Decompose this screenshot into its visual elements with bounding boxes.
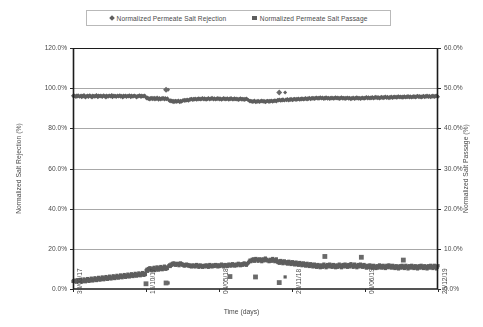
chart-plot-area [0,0,483,327]
y-axis-left-tick-label: 0.0% [27,285,67,292]
x-axis-tick-label: 04/05/18 [222,268,229,294]
y-axis-right-tick-label: 0.0% [444,285,483,292]
chart-figure: Normalized Permeate Salt Rejection Norma… [0,0,483,327]
y-axis-right-tick-label: 40.0% [444,124,483,131]
y-axis-left-tick-label: 40.0% [27,205,67,212]
y-axis-right-tick-label: 60.0% [444,44,483,51]
y-axis-left-title: Normalized Salt Rejection (%) [15,99,22,239]
y-axis-left-tick-label: 80.0% [27,124,67,131]
y-axis-left-tick-label: 20.0% [27,245,67,252]
x-axis-tick-label: 16/10/17 [149,268,156,294]
y-axis-left-tick-label: 60.0% [27,165,67,172]
y-axis-right-tick-label: 20.0% [444,205,483,212]
y-axis-right-tick-label: 30.0% [444,165,483,172]
x-axis-tick-label: 25/12/19 [441,268,448,294]
y-axis-right-tick-label: 50.0% [444,84,483,91]
y-axis-right-tick-label: 10.0% [444,245,483,252]
x-axis-tick-label: 20/11/18 [295,269,302,294]
y-axis-left-tick-label: 120.0% [27,44,67,51]
x-axis-tick-label: 08/06/19 [368,268,375,294]
x-axis-tick-label: 30/03/17 [76,268,83,294]
y-axis-left-tick-label: 100.0% [27,84,67,91]
x-axis-title: Time (days) [0,308,483,315]
